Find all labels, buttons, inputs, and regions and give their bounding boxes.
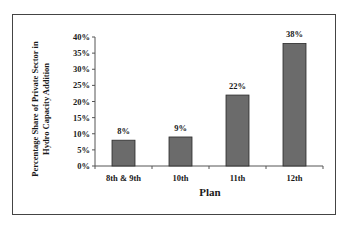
bar-value-label: 9% — [174, 123, 187, 133]
x-tick-label: 12th — [286, 173, 302, 183]
bar — [283, 43, 306, 166]
x-axis-title: Plan — [199, 186, 220, 198]
bar — [169, 137, 192, 166]
y-tick-label: 30% — [73, 64, 90, 74]
y-tick-label: 5% — [77, 145, 90, 155]
bar — [226, 95, 249, 166]
y-tick-label: 0% — [77, 161, 90, 171]
y-axis-title: Percentage Share of Private Sector in Hy… — [30, 41, 51, 177]
bar-value-label: 22% — [229, 81, 246, 91]
y-tick-label: 25% — [73, 80, 90, 90]
bars — [112, 43, 306, 166]
data-labels: 8%9%22%38% — [117, 29, 303, 136]
y-tick-label: 40% — [73, 32, 90, 42]
bar-chart: 0%5%10%15%20%25%30%35%40% 8th & 9th10th1… — [0, 0, 347, 226]
y-axis: 0%5%10%15%20%25%30%35%40% — [73, 32, 95, 171]
svg-text:Hydro Capacity Addition: Hydro Capacity Addition — [41, 63, 51, 155]
y-tick-label: 20% — [73, 97, 90, 107]
x-tick-label: 8th & 9th — [106, 173, 141, 183]
bar-value-label: 8% — [117, 126, 130, 136]
svg-text:Percentage Share of Private S: Percentage Share of Private Sector in — [30, 41, 40, 177]
y-tick-label: 10% — [73, 129, 90, 139]
bar-value-label: 38% — [286, 29, 303, 39]
x-tick-label: 11th — [230, 173, 246, 183]
x-axis: 8th & 9th10th11th12th — [95, 166, 323, 183]
x-tick-label: 10th — [172, 173, 188, 183]
bar — [112, 140, 135, 166]
y-tick-label: 35% — [73, 48, 90, 58]
y-tick-label: 15% — [73, 113, 90, 123]
